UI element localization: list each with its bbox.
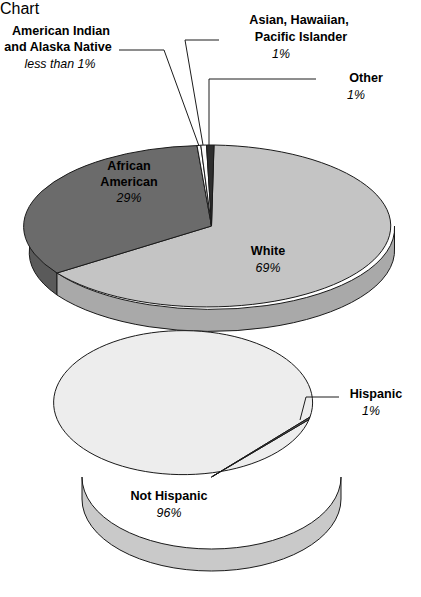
american-indian-label-line2: and Alaska Native <box>4 40 111 54</box>
asian-pacific-islander-leader-line <box>185 40 219 145</box>
figure-root: American Indian and Alaska Native less t… <box>0 0 421 597</box>
white-label-line1: White <box>251 244 285 258</box>
other-label: Other 1% <box>347 71 383 102</box>
other-label-line1: Other <box>349 71 383 85</box>
other-label-pct: 1% <box>347 88 365 102</box>
ethnicity-pie-chart: Hispanic 1% Not Hispanic 96% <box>54 331 403 571</box>
african-american-label-line2: American <box>100 175 157 189</box>
not-hispanic-slice <box>54 331 313 477</box>
not-hispanic-label-line1: Not Hispanic <box>131 489 208 503</box>
american-indian-label-pct: less than 1% <box>25 57 96 71</box>
not-hispanic-slice-side <box>82 477 341 571</box>
not-hispanic-label-pct: 96% <box>157 506 182 520</box>
not-hispanic-label: Not Hispanic 96% <box>131 489 208 520</box>
asian-pacific-islander-label: Asian, Hawaiian, Pacific Islander 1% <box>249 13 348 61</box>
hispanic-label-pct: 1% <box>362 404 380 418</box>
african-american-label-line1: African <box>107 159 150 173</box>
asian-pacific-islander-label-line2: Pacific Islander <box>255 30 347 44</box>
hispanic-label-line1: Hispanic <box>350 387 403 401</box>
hispanic-label: Hispanic 1% <box>350 387 403 418</box>
american-indian-label: American Indian and Alaska Native less t… <box>4 24 111 71</box>
race-pie-chart: American Indian and Alaska Native less t… <box>4 13 394 331</box>
american-indian-label-line1: American Indian <box>12 24 110 38</box>
african-american-label-pct: 29% <box>116 191 142 205</box>
other-leader-line <box>209 79 316 145</box>
asian-pacific-islander-label-line1: Asian, Hawaiian, <box>249 13 348 27</box>
asian-pacific-islander-label-pct: 1% <box>272 47 290 61</box>
pie-charts-svg: American Indian and Alaska Native less t… <box>0 0 421 597</box>
american-indian-leader-line <box>119 50 199 146</box>
white-label-pct: 69% <box>256 261 281 275</box>
